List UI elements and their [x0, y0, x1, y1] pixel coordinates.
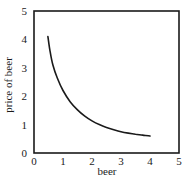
x-tick-label: 1	[60, 155, 66, 167]
chart: 012345 012345 beer price of beer	[0, 0, 185, 180]
y-tick-label: 0	[22, 147, 28, 159]
plot-frame	[34, 11, 179, 153]
y-tick-label: 1	[22, 119, 28, 131]
x-tick-label: 2	[89, 155, 95, 167]
y-axis-label: price of beer	[2, 57, 14, 113]
x-tick-label: 5	[176, 155, 182, 167]
x-tick-label: 4	[147, 155, 153, 167]
y-tick-label: 3	[22, 62, 28, 74]
y-tick-label: 2	[22, 90, 28, 102]
y-tick-label: 5	[22, 5, 28, 17]
demand-curve-line	[48, 37, 150, 136]
y-tick-label: 4	[22, 33, 28, 45]
x-tick-label: 0	[31, 155, 37, 167]
x-axis-label: beer	[98, 165, 117, 177]
y-axis-ticks: 012345	[22, 5, 28, 159]
x-tick-label: 3	[118, 155, 124, 167]
